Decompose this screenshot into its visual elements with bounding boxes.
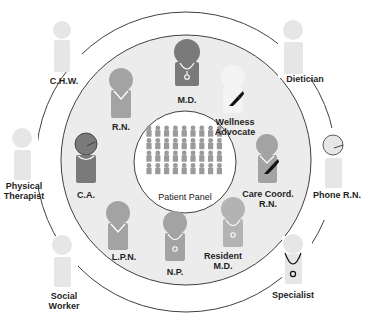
label-carecoord-1: Care Coord. (242, 189, 294, 199)
label-phone-rn: Phone R.N. (313, 190, 361, 200)
label-social-1: Social (51, 291, 78, 301)
label-pt-1: Physical (6, 181, 43, 191)
label-carecoord-2: R.N. (259, 199, 277, 209)
person-ca: C.A. (75, 133, 97, 200)
label-np: N.P. (167, 267, 183, 277)
label-resident-2: M.D. (214, 261, 233, 271)
label-ca: C.A. (77, 190, 95, 200)
label-specialist: Specialist (272, 290, 314, 300)
label-pt-2: Therapist (4, 191, 45, 201)
label-social-2: Worker (49, 301, 80, 311)
label-md: M.D. (178, 95, 197, 105)
care-team-diagram: Patient Panel M.D. R.N. Wellness Advocat… (0, 0, 371, 319)
person-rn: R.N. (109, 68, 133, 132)
label-wellness-2: Advocate (215, 127, 256, 137)
label-dietician: Dietician (286, 74, 324, 84)
patient-panel-label: Patient Panel (158, 192, 212, 202)
label-rn: R.N. (112, 122, 130, 132)
label-resident-1: Resident (204, 251, 242, 261)
person-md: M.D. (174, 39, 200, 105)
label-chw: C.H.W. (50, 76, 79, 86)
label-wellness-1: Wellness (216, 117, 255, 127)
label-lpn: L.P.N. (112, 252, 136, 262)
